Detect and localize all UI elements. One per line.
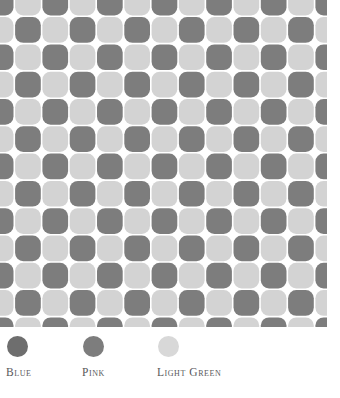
- pattern-canvas: [0, 0, 327, 327]
- pattern-preview: [0, 0, 327, 327]
- legend-label-pink: Pink: [82, 366, 105, 378]
- color-legend: Blue Pink Light Green: [0, 336, 340, 398]
- color-swatch-pink-icon: [83, 336, 104, 357]
- legend-label-blue: Blue: [6, 366, 31, 378]
- pattern-swatch-page: Blue Pink Light Green: [0, 0, 340, 398]
- legend-label-light-green: Light Green: [157, 366, 221, 378]
- legend-item-blue: Blue: [6, 336, 31, 378]
- color-swatch-light-green-icon: [158, 336, 179, 357]
- legend-item-light-green: Light Green: [157, 336, 221, 378]
- color-swatch-blue-icon: [7, 336, 28, 357]
- legend-item-pink: Pink: [82, 336, 105, 378]
